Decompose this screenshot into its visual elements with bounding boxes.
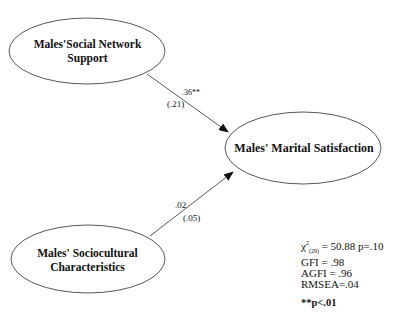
significance-note: **p<.01 xyxy=(301,297,336,308)
node-sociocultural-label: Males' Sociocultural Characteristics xyxy=(20,246,155,274)
rmsea-stat: RMSEA=.04 xyxy=(301,279,384,290)
path-arrow-support xyxy=(147,74,228,132)
path-sociocultural-coefficient: .02 xyxy=(175,200,186,210)
node-marital-satisfaction-label: Males' Marital Satisfaction xyxy=(225,141,383,155)
path-sociocultural-se: (.05) xyxy=(183,213,200,223)
fit-statistics: χ2(29) = 50.88 p=.10 GFI = .98 AGFI = .9… xyxy=(301,238,384,290)
path-arrow-sociocultural xyxy=(150,172,233,236)
chi-square-stat: χ2(29) = 50.88 p=.10 xyxy=(301,238,384,257)
path-support-se: (.21) xyxy=(167,99,184,109)
node-social-support-label: Males'Social Network Support xyxy=(20,37,155,65)
path-support-coefficient: .36** xyxy=(182,88,200,97)
